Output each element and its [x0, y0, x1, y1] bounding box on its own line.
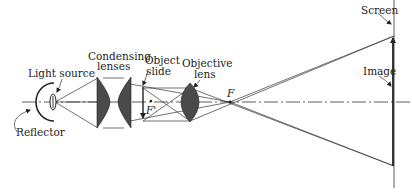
label-focal-point: F [226, 87, 235, 99]
focal-point-prime-dot [150, 100, 153, 103]
label-light-source: Light source [28, 67, 95, 79]
label-condensing-2: lenses [97, 60, 130, 72]
label-image: Image [363, 65, 396, 77]
label-reflector: Reflector [16, 126, 66, 138]
projector-optics-diagram: Light source Reflector Condensing lenses… [0, 0, 412, 194]
condensing-lens-1 [97, 77, 110, 128]
projection-rays [190, 36, 394, 166]
label-focal-point-prime: F' [145, 104, 156, 116]
label-object-2: slide [146, 65, 171, 77]
focal-point-dot [229, 101, 232, 104]
label-objective-2: lens [194, 68, 216, 80]
label-screen: Screen [361, 4, 399, 16]
light-source-bulb [50, 94, 56, 110]
condensing-lens-2 [118, 77, 131, 128]
